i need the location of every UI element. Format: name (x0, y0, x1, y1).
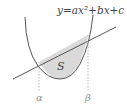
equation-label: y=ax²+bx+c (56, 4, 124, 16)
region-s-label: S (57, 60, 65, 73)
alpha-label: α (36, 92, 43, 103)
beta-label: β (84, 92, 91, 103)
parabola-line-diagram: y=ax²+bx+c S α β (0, 0, 127, 107)
